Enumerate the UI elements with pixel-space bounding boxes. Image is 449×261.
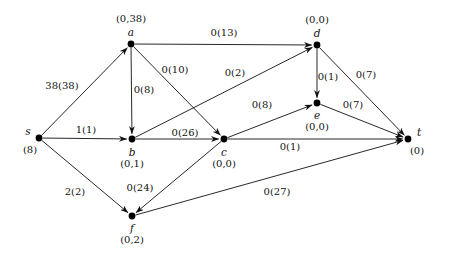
edge-label-a-d: 0(13) [211, 28, 238, 38]
graph-canvas [0, 0, 449, 261]
edge-label-s-a: 38(38) [45, 81, 78, 91]
graph-edge-b-d [135, 47, 312, 137]
edge-label-f-t: 0(27) [264, 187, 291, 197]
graph-node-f [129, 213, 136, 220]
edge-label-e-t: 0(7) [343, 100, 364, 110]
graph-node-t [405, 136, 412, 143]
node-value-e: (0,0) [305, 122, 329, 132]
graph-edge-c-f [136, 141, 221, 212]
edge-label-s-f: 2(2) [65, 187, 86, 197]
graph-edge-a-b [131, 48, 132, 134]
node-value-s: (8) [23, 145, 37, 155]
node-name-d: d [314, 28, 321, 39]
node-value-b: (0,1) [120, 159, 144, 169]
node-name-f: f [130, 223, 134, 234]
edge-label-a-c: 0(10) [162, 65, 189, 75]
graph-node-e [314, 100, 321, 107]
graph-edge-a-d [135, 44, 312, 45]
node-name-t: t [417, 127, 421, 138]
edge-label-c-e: 0(8) [252, 100, 273, 110]
node-value-f: (0,2) [120, 235, 144, 245]
graph-edge-d-t [320, 48, 405, 136]
edge-label-a-b: 0(8) [134, 85, 155, 95]
graph-edge-s-b [43, 138, 127, 139]
graph-edge-s-f [42, 140, 128, 212]
node-name-c: c [221, 147, 227, 158]
flow-network-diagram: 38(38)1(1)2(2)0(13)0(8)0(10)0(2)0(26)0(8… [0, 0, 449, 261]
edge-label-s-b: 1(1) [76, 125, 97, 135]
graph-node-b [129, 136, 136, 143]
edge-label-b-d: 0(2) [225, 68, 246, 78]
graph-edge-s-a [42, 48, 128, 136]
graph-node-s [36, 135, 43, 142]
edge-label-d-e: 0(1) [318, 72, 339, 82]
node-name-e: e [314, 110, 320, 121]
edge-label-c-f: 0(24) [127, 183, 154, 193]
node-value-a: (0,38) [116, 14, 146, 24]
graph-edge-f-t [135, 140, 403, 215]
edge-label-b-c: 0(26) [172, 128, 199, 138]
node-name-a: a [128, 27, 134, 38]
edge-label-c-t: 0(1) [280, 142, 301, 152]
graph-node-c [221, 136, 228, 143]
node-name-b: b [129, 147, 136, 158]
node-name-s: s [25, 126, 30, 137]
node-value-c: (0,0) [212, 159, 236, 169]
node-value-d: (0,0) [305, 15, 329, 25]
graph-node-d [314, 42, 321, 49]
node-value-t: (0) [410, 146, 424, 156]
graph-node-a [128, 41, 135, 48]
edge-label-d-t: 0(7) [356, 70, 377, 80]
